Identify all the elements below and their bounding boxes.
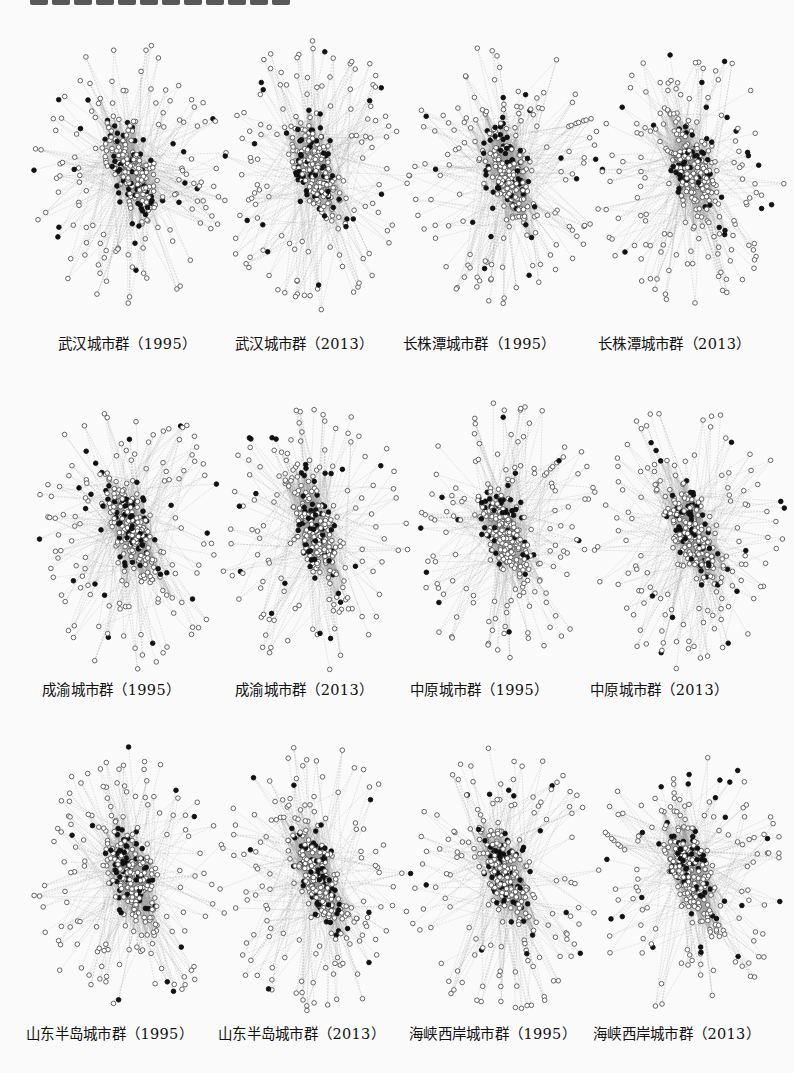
graph-nodes: [407, 46, 599, 306]
graph-nodes: [592, 412, 786, 671]
network-figure-grid: 武汉城市群（1995）武汉城市群（2013）长株潭城市群（1995）长株潭城市群…: [0, 0, 794, 1073]
graph-nodes: [596, 53, 786, 306]
network-graph-panel: [30, 740, 230, 1025]
network-graph-panel: [590, 740, 790, 1025]
network-graph-panel: [590, 395, 790, 680]
network-graph-panel: [590, 35, 790, 320]
panel-caption: 海峡西岸城市群（2013）: [593, 1022, 760, 1043]
network-graph-panel: [405, 35, 605, 320]
panel-caption: 山东半岛城市群（1995）: [26, 1022, 193, 1043]
network-graph: [215, 740, 415, 1025]
network-graph: [405, 740, 605, 1025]
network-graph-panel: [215, 35, 415, 320]
network-graph-panel: [405, 395, 605, 680]
network-graph-panel: [30, 35, 230, 320]
panel-caption: 成渝城市群（2013）: [235, 678, 373, 699]
panel-caption: 长株潭城市群（2013）: [598, 332, 751, 353]
network-graph: [590, 395, 790, 680]
graph-nodes: [221, 407, 410, 671]
graph-nodes: [603, 755, 782, 1008]
panel-caption: 中原城市群（1995）: [410, 678, 548, 699]
network-graph-panel: [30, 395, 230, 680]
graph-nodes: [37, 412, 219, 672]
graph-nodes: [32, 43, 229, 305]
network-graph: [30, 395, 230, 680]
network-graph: [405, 395, 605, 680]
panel-caption: 长株潭城市群（1995）: [403, 332, 556, 353]
panel-caption: 山东半岛城市群（2013）: [218, 1022, 385, 1043]
panel-caption: 成渝城市群（1995）: [42, 678, 180, 699]
network-graph: [405, 35, 605, 320]
network-graph: [215, 395, 415, 680]
network-graph-panel: [215, 740, 415, 1025]
network-graph-panel: [405, 740, 605, 1025]
panel-caption: 中原城市群（2013）: [590, 678, 728, 699]
network-graph: [30, 740, 230, 1025]
graph-nodes: [411, 746, 602, 1011]
network-graph: [590, 35, 790, 320]
network-graph: [215, 35, 415, 320]
panel-caption: 武汉城市群（1995）: [58, 332, 196, 353]
network-graph-panel: [215, 395, 415, 680]
panel-caption: 武汉城市群（2013）: [235, 332, 373, 353]
network-graph: [30, 35, 230, 320]
network-graph: [590, 740, 790, 1025]
panel-caption: 海峡西岸城市群（1995）: [409, 1022, 576, 1043]
